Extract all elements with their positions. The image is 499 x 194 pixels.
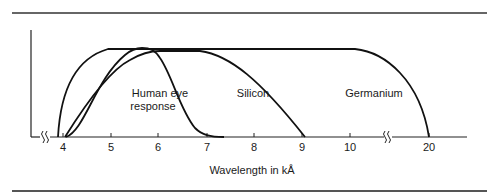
- spectral-response-chart: 4 5 6 7 8 9 10 20 Wavelength in kÅ Human…: [0, 0, 499, 194]
- annotation-germanium: Germanium: [345, 87, 402, 99]
- x-axis-title: Wavelength in kÅ: [209, 164, 295, 176]
- annotation-human-eye: Human eye: [132, 87, 188, 99]
- x-tick-label: 10: [344, 141, 356, 153]
- axis-break-icon: [384, 131, 391, 143]
- x-tick-label: 5: [108, 141, 114, 153]
- x-tick-label: 7: [204, 141, 210, 153]
- axis-break-icon: [42, 131, 49, 143]
- x-tick-label: 20: [423, 141, 435, 153]
- annotation-silicon: Silicon: [237, 87, 269, 99]
- x-tick-label: 4: [60, 141, 66, 153]
- x-tick-label: 8: [251, 141, 257, 153]
- annotation-human-eye-line2: response: [130, 100, 175, 112]
- x-tick-label: 9: [299, 141, 305, 153]
- x-tick-label: 6: [155, 141, 161, 153]
